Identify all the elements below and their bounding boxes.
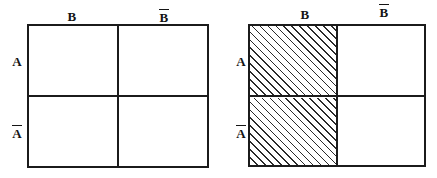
- diagram-b: B B A A: [219, 0, 437, 178]
- right-row2-text: A: [236, 126, 246, 140]
- right-column-label-bbar: B: [364, 5, 404, 19]
- left-row2-text: A: [12, 126, 22, 140]
- left-column-label-b: B: [52, 10, 92, 23]
- left-row1-text: A: [12, 54, 22, 69]
- left-col2-text: B: [160, 10, 169, 24]
- figure-root: B B A A B B A: [0, 0, 437, 178]
- left-row-label-abar: A: [6, 126, 28, 140]
- left-column-label-bbar: B: [144, 10, 184, 24]
- right-horizontal-divider: [248, 95, 426, 97]
- right-col2-text: B: [380, 5, 389, 19]
- left-row-label-a: A: [6, 55, 28, 68]
- diagram-a: B B A A: [0, 0, 219, 178]
- right-col1-text: B: [301, 7, 310, 22]
- left-horizontal-divider: [27, 95, 209, 97]
- right-column-label-b: B: [285, 8, 325, 21]
- right-row1-text: A: [236, 54, 246, 69]
- left-col1-text: B: [68, 9, 77, 24]
